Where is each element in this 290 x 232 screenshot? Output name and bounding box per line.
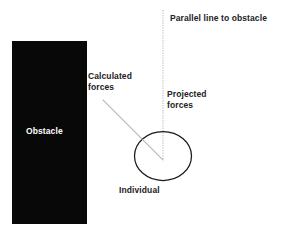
parallel-line-label: Parallel line to obstacle	[170, 13, 267, 24]
calculated-forces-label-line1: Calculated	[88, 71, 132, 81]
projected-forces-label: Projectedforces	[167, 89, 207, 110]
diagram-svg	[0, 0, 290, 232]
calculated-forces-label: Calculatedforces	[88, 71, 132, 92]
calculated-forces-label-line2: forces	[88, 82, 114, 92]
projected-forces-label-line1: Projected	[167, 89, 207, 99]
obstacle-label: Obstacle	[26, 126, 63, 137]
calculated-forces-arrow	[103, 100, 163, 160]
projected-forces-label-line2: forces	[167, 100, 193, 110]
individual-label: Individual	[119, 185, 160, 196]
figure-canvas: Parallel line to obstacle Calculatedforc…	[0, 0, 290, 232]
